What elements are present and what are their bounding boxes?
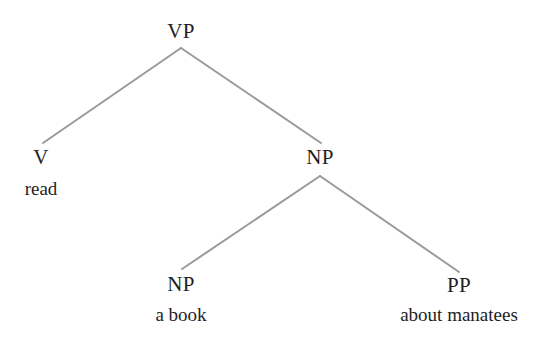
node-pp-category: PP <box>447 275 471 296</box>
edge-vp-v <box>43 48 181 143</box>
node-np-category: NP <box>306 147 333 168</box>
node-pp-word: about manatees <box>400 305 518 324</box>
node-v-word: read <box>25 179 58 198</box>
node-v-category: V <box>33 147 48 168</box>
node-np-book-category: NP <box>167 274 194 295</box>
node-vp-category: VP <box>167 21 194 42</box>
edge-np-pp <box>320 176 459 272</box>
edge-vp-np <box>181 48 321 143</box>
tree-edges <box>0 0 550 351</box>
edge-np-np-book <box>182 176 320 269</box>
node-np-book-word: a book <box>155 305 206 324</box>
syntax-tree-diagram: VP V read NP NP a book PP about manatees <box>0 0 550 351</box>
